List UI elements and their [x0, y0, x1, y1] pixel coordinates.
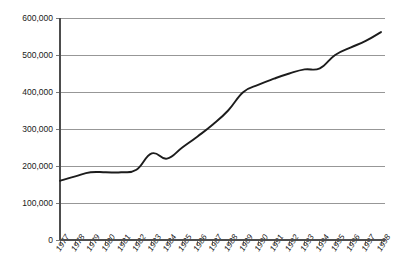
y-axis-tick-label: 300,000 [22, 124, 53, 134]
y-axis-tick-label: 200,000 [22, 161, 53, 171]
line-chart: 0100,000200,000300,000400,000500,000600,… [0, 0, 399, 277]
y-axis-tick-label: 100,000 [22, 198, 53, 208]
y-axis-tick-label: 600,000 [22, 13, 53, 23]
y-axis-tick-label: 500,000 [22, 50, 53, 60]
chart-canvas: 0100,000200,000300,000400,000500,000600,… [0, 0, 399, 277]
y-axis-tick-label: 400,000 [22, 87, 53, 97]
y-axis-tick-label: 0 [48, 235, 53, 245]
